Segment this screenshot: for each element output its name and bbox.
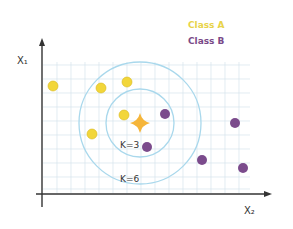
grid: [43, 62, 250, 193]
class-b-points: [142, 109, 248, 173]
class-b-point: [238, 163, 248, 173]
class-b-point: [142, 142, 152, 152]
legend-class-b: Class B: [188, 36, 225, 46]
class-a-point: [87, 129, 97, 139]
y-axis-label: X₁: [17, 55, 28, 66]
k3-label: K=3: [120, 140, 139, 150]
x-axis-label: X₂: [244, 205, 255, 216]
class-a-point: [48, 81, 58, 91]
k6-label: K=6: [120, 174, 139, 184]
class-a-points: [48, 77, 132, 139]
class-a-point: [122, 77, 132, 87]
legend-class-a: Class A: [188, 20, 225, 30]
class-a-point: [119, 110, 129, 120]
class-a-point: [96, 83, 106, 93]
knn-diagram: X₁ X₂ Class A Class B K=3 K=6: [0, 0, 293, 229]
class-b-point: [197, 155, 207, 165]
class-b-point: [230, 118, 240, 128]
class-b-point: [160, 109, 170, 119]
query-point-star-icon: [130, 113, 150, 133]
